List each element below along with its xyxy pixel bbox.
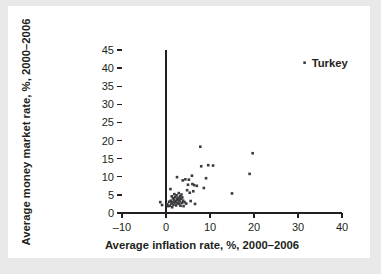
data-point — [187, 183, 190, 186]
x-tick-label: 20 — [248, 221, 260, 233]
data-point — [200, 165, 203, 168]
data-point — [181, 196, 184, 199]
data-point — [192, 190, 195, 193]
data-points-group — [159, 61, 306, 208]
data-point — [303, 61, 306, 64]
y-tick-label: 40 — [102, 62, 114, 74]
y-tick-label: 45 — [102, 44, 114, 56]
x-axis-title: Average inflation rate, %, 2000–2006 — [105, 239, 299, 251]
data-point — [207, 164, 210, 167]
scatter-plot: –10010203040051015202530354045 Turkey Av… — [8, 6, 370, 258]
data-point — [193, 184, 196, 187]
data-point — [171, 206, 174, 209]
data-point — [176, 176, 179, 179]
data-point — [231, 192, 234, 195]
data-point — [181, 179, 184, 182]
x-tick-label: 40 — [336, 221, 348, 233]
data-point — [180, 193, 183, 196]
data-point — [184, 178, 187, 181]
y-tick-label: 35 — [102, 80, 114, 92]
data-point — [248, 173, 251, 176]
data-point — [205, 177, 208, 180]
data-point — [169, 188, 172, 191]
y-tick-label: 10 — [102, 171, 114, 183]
data-point — [194, 203, 197, 206]
data-point — [212, 164, 215, 167]
data-point — [179, 204, 182, 207]
annotations-group: Turkey — [312, 57, 349, 69]
data-point — [177, 192, 180, 195]
data-point — [186, 189, 189, 192]
tick-labels-group: –10010203040051015202530354045 — [102, 44, 348, 233]
data-point — [251, 152, 254, 155]
y-tick-label: 20 — [102, 135, 114, 147]
y-tick-label: 25 — [102, 116, 114, 128]
x-tick-label: 10 — [204, 221, 216, 233]
x-tick-label: 0 — [163, 221, 169, 233]
axes-group — [122, 50, 342, 213]
annotation-label: Turkey — [312, 57, 349, 69]
y-tick-label: 0 — [108, 207, 114, 219]
data-point — [188, 178, 191, 181]
data-point — [161, 204, 164, 207]
data-point — [203, 187, 206, 190]
data-point — [199, 145, 202, 148]
y-tick-label: 5 — [108, 189, 114, 201]
x-tick-label: –10 — [113, 221, 131, 233]
data-point — [188, 191, 191, 194]
data-point — [191, 174, 194, 177]
data-point — [185, 202, 188, 205]
y-tick-label: 30 — [102, 98, 114, 110]
x-tick-label: 30 — [292, 221, 304, 233]
y-tick-label: 15 — [102, 153, 114, 165]
chart-panel: –10010203040051015202530354045 Turkey Av… — [8, 6, 370, 258]
data-point — [159, 201, 162, 204]
data-point — [189, 200, 192, 203]
figure-root: –10010203040051015202530354045 Turkey Av… — [0, 0, 381, 274]
data-point — [182, 205, 185, 208]
y-axis-title: Average money market rate, %, 2000–2006 — [20, 19, 32, 246]
ticks-group — [117, 50, 342, 218]
data-point — [196, 185, 199, 188]
